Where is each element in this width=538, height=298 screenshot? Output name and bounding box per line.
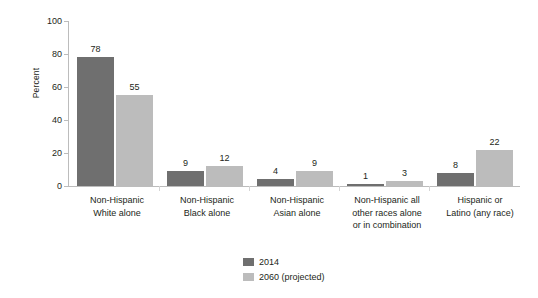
bar-2060-hispanic-or-latino: [476, 150, 513, 186]
y-axis-tick-labels: 100 80 60 40 20 0: [36, 0, 62, 298]
bar-2014-non-hispanic-white-alone: [77, 57, 114, 186]
y-tick-label-60: 60: [36, 83, 62, 92]
bar-label-2014-non-hispanic-white-alone: 78: [77, 45, 114, 54]
bar-2060-non-hispanic-asian-alone: [296, 171, 333, 186]
x-category-line: Non-Hispanic: [162, 194, 252, 207]
x-category-line: White alone: [72, 207, 162, 220]
x-axis-line: [68, 186, 520, 187]
y-tick-label-80: 80: [36, 50, 62, 59]
legend-item-2060: 2060 (projected): [243, 271, 325, 283]
bar-chart: Percent 100 80 60 40 20 0 78 55 9 12 4 9: [0, 0, 538, 298]
x-group-separator-2: [249, 186, 250, 191]
x-category-label-hispanic-or-latino: Hispanic or Latino (any race): [432, 194, 528, 219]
legend-swatch-icon-2014: [243, 258, 254, 266]
bar-2014-non-hispanic-black-alone: [167, 171, 204, 186]
y-tick-label-20: 20: [36, 149, 62, 158]
plot-area: 78 55 9 12 4 9 1 3 8 22: [68, 21, 520, 186]
x-category-line: Non-Hispanic: [252, 194, 342, 207]
bar-2060-non-hispanic-other-races: [386, 181, 423, 186]
y-tick-label-40: 40: [36, 116, 62, 125]
legend-item-2014: 2014: [243, 256, 325, 268]
x-category-line: other races alone: [339, 207, 435, 220]
bar-label-2014-non-hispanic-black-alone: 9: [167, 159, 204, 168]
x-category-line: Non-Hispanic: [72, 194, 162, 207]
bar-label-2014-non-hispanic-asian-alone: 4: [257, 167, 294, 176]
x-category-line: Non-Hispanic all: [339, 194, 435, 207]
bar-label-2060-non-hispanic-asian-alone: 9: [296, 159, 333, 168]
bar-2014-hispanic-or-latino: [437, 173, 474, 186]
bar-2014-non-hispanic-other-races: [347, 184, 384, 186]
bar-label-2060-non-hispanic-black-alone: 12: [206, 154, 243, 163]
legend-swatch-icon-2060: [243, 273, 254, 281]
bar-label-2014-non-hispanic-other-races: 1: [347, 172, 384, 181]
x-category-line: Black alone: [162, 207, 252, 220]
x-category-line: or in combination: [339, 219, 435, 232]
bar-2014-non-hispanic-asian-alone: [257, 179, 294, 186]
x-category-label-non-hispanic-white-alone: Non-Hispanic White alone: [72, 194, 162, 219]
y-tick-label-0: 0: [36, 182, 62, 191]
x-category-label-non-hispanic-black-alone: Non-Hispanic Black alone: [162, 194, 252, 219]
bar-2060-non-hispanic-white-alone: [116, 95, 153, 186]
bar-label-2060-non-hispanic-other-races: 3: [386, 169, 423, 178]
x-category-label-non-hispanic-asian-alone: Non-Hispanic Asian alone: [252, 194, 342, 219]
x-group-separator-3: [339, 186, 340, 191]
bar-label-2014-hispanic-or-latino: 8: [437, 161, 474, 170]
legend-label-2014: 2014: [259, 258, 279, 267]
bar-label-2060-hispanic-or-latino: 22: [476, 138, 513, 147]
x-group-separator-1: [159, 186, 160, 191]
x-category-line: Asian alone: [252, 207, 342, 220]
x-category-line: Hispanic or: [432, 194, 528, 207]
y-tick-label-100: 100: [36, 17, 62, 26]
legend-label-2060: 2060 (projected): [259, 273, 325, 282]
bar-2060-non-hispanic-black-alone: [206, 166, 243, 186]
bar-label-2060-non-hispanic-white-alone: 55: [116, 83, 153, 92]
x-category-line: Latino (any race): [432, 207, 528, 220]
x-category-label-non-hispanic-other-races: Non-Hispanic all other races alone or in…: [339, 194, 435, 232]
x-group-separator-4: [429, 186, 430, 191]
chart-legend: 2014 2060 (projected): [243, 256, 325, 286]
